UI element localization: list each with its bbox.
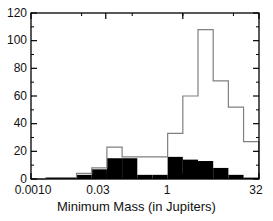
filled-bar	[198, 161, 213, 179]
filled-bar	[183, 160, 198, 179]
filled-bar	[107, 158, 122, 179]
filled-bar	[92, 169, 107, 179]
filled-bar	[213, 168, 228, 179]
histogram-plot	[0, 0, 273, 221]
chart-root: 120 100 80 60 40 20 0 0.0010 0.03 1 32 M…	[0, 0, 273, 221]
filled-bar	[122, 158, 137, 179]
open-histogram-series	[31, 30, 259, 179]
filled-histogram-series	[46, 157, 259, 179]
filled-bar	[168, 157, 183, 179]
plot-axes	[31, 13, 259, 179]
open-step-outline	[31, 30, 259, 179]
plot-frame	[31, 13, 259, 179]
